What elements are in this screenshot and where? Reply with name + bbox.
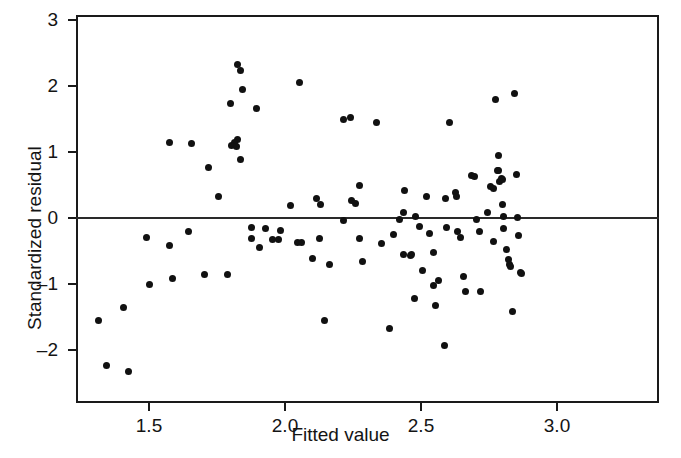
data-point xyxy=(125,368,132,375)
data-point xyxy=(287,202,294,209)
data-point xyxy=(256,244,263,251)
x-tick-1 xyxy=(284,403,286,411)
data-point xyxy=(400,209,407,216)
data-point xyxy=(441,342,448,349)
data-point xyxy=(188,140,195,147)
y-tick-label-1: 2 xyxy=(18,76,58,95)
data-point xyxy=(298,239,305,246)
y-tick-label-5: –2 xyxy=(18,340,58,359)
data-point xyxy=(340,116,347,123)
data-point xyxy=(248,235,255,242)
x-tick-2 xyxy=(420,403,422,411)
x-tick-3 xyxy=(556,403,558,411)
y-tick-3 xyxy=(68,217,76,219)
data-point xyxy=(359,258,366,265)
data-point xyxy=(401,187,408,194)
y-tick-0 xyxy=(68,19,76,21)
data-point xyxy=(509,308,516,315)
data-point xyxy=(423,193,430,200)
scatter-plot: 3210–1–2 1.52.02.53.0 Standardized resid… xyxy=(0,0,681,458)
x-axis-title: Fitted value xyxy=(0,424,681,446)
data-point xyxy=(146,281,153,288)
plot-frame xyxy=(76,15,659,403)
data-point xyxy=(347,114,354,121)
data-point xyxy=(169,275,176,282)
data-point xyxy=(275,236,282,243)
data-point xyxy=(430,249,437,256)
data-point xyxy=(514,214,521,221)
data-point xyxy=(103,362,110,369)
data-point xyxy=(215,193,222,200)
x-tick-0 xyxy=(148,403,150,411)
data-point xyxy=(316,235,323,242)
data-point xyxy=(248,224,255,231)
y-axis-title: Standardized residual xyxy=(24,146,46,330)
data-point xyxy=(460,273,467,280)
data-point xyxy=(253,105,260,112)
zero-reference-line xyxy=(76,217,659,219)
y-tick-1 xyxy=(68,85,76,87)
y-tick-5 xyxy=(68,349,76,351)
data-point xyxy=(490,238,497,245)
data-point xyxy=(513,171,520,178)
y-tick-4 xyxy=(68,283,76,285)
data-point xyxy=(518,270,525,277)
data-point xyxy=(471,173,478,180)
data-point xyxy=(237,67,244,74)
data-point xyxy=(507,263,514,270)
y-tick-label-0: 3 xyxy=(18,10,58,29)
data-point xyxy=(411,295,418,302)
data-point xyxy=(492,96,499,103)
data-point xyxy=(453,193,460,200)
data-point xyxy=(495,167,502,174)
data-point xyxy=(408,251,415,258)
data-point xyxy=(400,251,407,258)
data-point xyxy=(426,230,433,237)
data-point xyxy=(120,304,127,311)
data-point xyxy=(95,317,102,324)
data-point xyxy=(233,143,240,150)
y-tick-2 xyxy=(68,151,76,153)
data-point xyxy=(317,201,324,208)
